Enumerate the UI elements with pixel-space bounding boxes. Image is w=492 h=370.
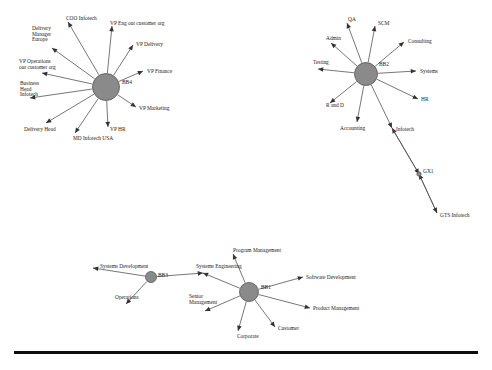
network-bb1-edge-4 [237, 302, 246, 331]
network-bb2-chain-edge-fwd-0-line [392, 128, 419, 174]
network-bb1-hub-label-bb1: BB1 [261, 284, 271, 290]
network-bb2-label-hr: HR [421, 96, 429, 102]
network-bb2-edge-0-line [347, 23, 362, 63]
network-bb2-label-infotech: Infotech [396, 126, 414, 132]
network-bb2-edge-4 [377, 79, 418, 99]
network-bb1-hub-bb1[interactable] [240, 283, 259, 302]
network-bb2-label-gts-infotech: GTS Infotech [440, 212, 470, 218]
network-bb1-edge-2 [259, 295, 310, 309]
network-bb4-edge-7-arrowhead [46, 118, 52, 123]
network-bb1-label-software-development: Software Development [306, 274, 356, 280]
network-bb2-label-accounting: Accounting [340, 125, 365, 131]
network-bb2-label-gx1: GX1 [423, 168, 434, 174]
network-bb4-edge-10 [52, 48, 95, 79]
network-bb1-edge-3 [255, 300, 275, 327]
network-bb4-hub-bb4[interactable] [93, 74, 120, 101]
network-bb2-edge-1-line [368, 26, 375, 62]
network-bb2-edge-8 [318, 67, 354, 73]
network-bb4-edge-6-arrowhead [75, 127, 80, 133]
network-bb1-label-systems-engineering: Systems Engineering [196, 263, 242, 269]
network-bb1-label-program-management: Program Management [233, 247, 282, 253]
network-bb4-edge-1-line [107, 26, 112, 73]
network-bb1-sub-label-operations: Operations [115, 294, 139, 300]
network-bb1-sub-edge-0-arrowhead [93, 267, 98, 272]
network-bb2-edge-0-arrowhead [347, 23, 351, 29]
network-bb1-hub-bb1-circle[interactable] [240, 283, 259, 302]
network-bb2-node-gx1[interactable] [417, 172, 421, 176]
network-bb1-edge-2-line [259, 295, 310, 308]
network-bb4-edge-9-arrowhead [42, 72, 48, 76]
network-bb2-edge-0 [347, 23, 362, 63]
network-bb4-edge-9 [42, 72, 92, 84]
network-bb4-hub-label-bb4: BB4 [122, 79, 132, 85]
network-bb2-edge-3 [378, 69, 416, 74]
network-bb2-edge-6-arrowhead [356, 116, 361, 122]
network-bb4-edge-0-line [68, 22, 99, 75]
network-bb2-chain-edge-fwd-1 [419, 174, 437, 213]
network-bb4-edge-4-arrowhead [130, 102, 136, 107]
network-bb4-edge-10-arrowhead [52, 48, 58, 53]
network-bb4-edge-9-line [42, 73, 92, 84]
network-bb1-subhub-bb3[interactable] [146, 272, 157, 283]
network-bb2-label-systems: Systems [420, 68, 438, 74]
network-bb2-chain-edge-fwd-0 [392, 128, 419, 174]
network-bb1-sub-bridge-arrowhead [198, 271, 203, 276]
network-bb4-edge-1-arrowhead [109, 26, 114, 31]
network-bb1-edge-1-arrowhead [297, 276, 303, 280]
network-bb2-hub-bb2[interactable] [355, 63, 378, 86]
network-bb2-edge-3-arrowhead [411, 69, 416, 74]
network-bb2-label-r-and-d: R and D [326, 102, 344, 108]
network-bb2-label-testing: Testing [313, 59, 329, 65]
network-bb4-edge-8-line [30, 89, 92, 98]
network-bb4-label-vp-finance: VP Finance [147, 68, 173, 74]
network-bb1-subhub-label-bb3: BB3 [158, 272, 168, 278]
network-bb2-label-consulting: Consulting [408, 38, 432, 44]
network-bb2-edge-4-line [377, 79, 418, 99]
network-bb2-edge-1-arrowhead [372, 26, 377, 32]
network-bb2-label-scm: SCM [378, 20, 390, 26]
network-bb2-hub-bb2-circle[interactable] [355, 63, 378, 86]
network-bb2-edge-8-arrowhead [318, 67, 323, 72]
network-bb4-edge-8 [30, 89, 92, 100]
network-bb2-edge-9 [331, 43, 357, 66]
network-bb4-edge-4 [118, 95, 136, 107]
network-bb2-node-gx1-circle[interactable] [417, 172, 421, 176]
network-bb4-edge-7 [46, 94, 94, 123]
network-bb4-label-vp-hr: VP HR [110, 126, 126, 132]
network-bb1-edge-6-line [203, 273, 240, 288]
footer-rule [14, 351, 478, 354]
network-bb4-edge-2-line [114, 45, 133, 75]
network-bb1-label-corporate: Corporate [237, 333, 259, 339]
network-bb1-edge-2-arrowhead [304, 304, 310, 308]
network-bb2-edge-5-line [371, 85, 392, 128]
network-bb4-edge-10-line [52, 48, 95, 79]
network-bb4-label-business-head-infotech: BusinessHeadInfotech [20, 80, 39, 97]
network-bb4-label-delivery-manager-europe: DeliveryManagerEurope [32, 25, 51, 42]
network-bb1-label-product-management: Product Management [313, 305, 360, 311]
network-bb1-subhub-bb3-circle[interactable] [146, 272, 157, 283]
network-bb1-edge-3-arrowhead [270, 321, 275, 327]
network-bb4-edge-2-arrowhead [128, 45, 133, 51]
network-bb2-edge-1 [368, 26, 376, 62]
network-bb4-label-coo-infotech: COO Infotech [66, 15, 97, 21]
network-bb2-hub-label-bb2: BB2 [379, 61, 389, 67]
network-diagram-svg: COO InfotechVP Eng out customer orgVP De… [0, 0, 492, 370]
network-bb2-chain-edge-fwd-1-line [419, 174, 437, 213]
network-bb4-edge-0 [68, 22, 99, 75]
network-bb1-edge-6 [203, 273, 240, 288]
network-bb4-edge-1 [107, 26, 113, 73]
network-bb4-label-vp-delivery: VP Delivery [136, 41, 163, 47]
network-bb2-edge-5 [371, 85, 392, 128]
network-bb4-label-vp-operations-our-customer-org: VP Operationsour customer org [19, 58, 56, 70]
network-bb4-edge-2 [114, 45, 133, 75]
network-bb4-label-delivery-head: Delivery Head [24, 126, 56, 132]
network-bb4-edge-7-line [46, 94, 94, 123]
network-bb4-hub-bb4-circle[interactable] [93, 74, 120, 101]
network-bb1-sub-edge-0-line [93, 268, 145, 276]
network-bb4-label-vp-eng-out-customer-org: VP Eng out customer org [110, 20, 165, 26]
network-bb2-edge-3-line [378, 71, 416, 73]
network-bb2-label-qa: QA [348, 16, 356, 22]
network-bb2-edge-6 [356, 86, 364, 122]
network-bb1-label-customer: Customer [278, 325, 299, 331]
network-bb2-edge-8-line [318, 69, 354, 73]
